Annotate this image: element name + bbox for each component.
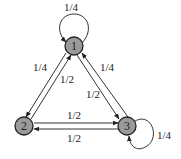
edge-label: 1/4 [64,1,79,13]
edge-3-to-1: 1/4 [82,53,128,117]
markov-chain-diagram: 1/4 1/4 1/2 1/2 1/4 1/2 1/2 1/4 1 [0,0,181,159]
node-1: 1 [65,37,83,55]
edge-label: 1/2 [60,73,74,85]
edge-1-to-2: 1/4 [26,53,66,117]
node-label: 1 [71,39,77,53]
edge-label: 1/4 [33,61,48,73]
edge-label: 1/2 [67,109,81,121]
edge-label: 1/4 [157,129,172,141]
edge-label: 1/4 [100,61,115,73]
edge-label: 1/2 [86,88,100,100]
node-3: 3 [118,117,136,135]
edge-label: 1/2 [67,132,81,144]
edge-3-to-2: 1/2 [34,129,118,144]
edge-2-to-3: 1/2 [34,109,118,123]
node-label: 3 [124,119,130,133]
node-label: 2 [21,119,27,133]
node-2: 2 [15,117,33,135]
